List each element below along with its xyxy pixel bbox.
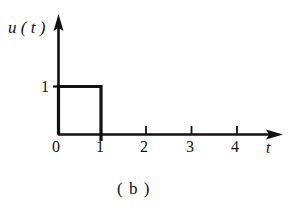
y-tick-label-1: 1 [41, 79, 49, 95]
x-tick-label-3: 3 [186, 139, 194, 155]
figure-caption: ( b ) [117, 180, 150, 197]
x-tick-label-1: 1 [96, 139, 104, 155]
x-tick-label-2: 2 [140, 139, 148, 155]
x-tick-label-0: 0 [52, 139, 60, 155]
x-axis-label: t [266, 140, 270, 156]
figure-container: u ( t ) t 1 0 1 2 3 4 ( b ) [0, 0, 296, 212]
x-tick-label-4: 4 [231, 139, 239, 155]
pulse-waveform [59, 87, 102, 142]
y-axis-label: u ( t ) [8, 19, 45, 36]
